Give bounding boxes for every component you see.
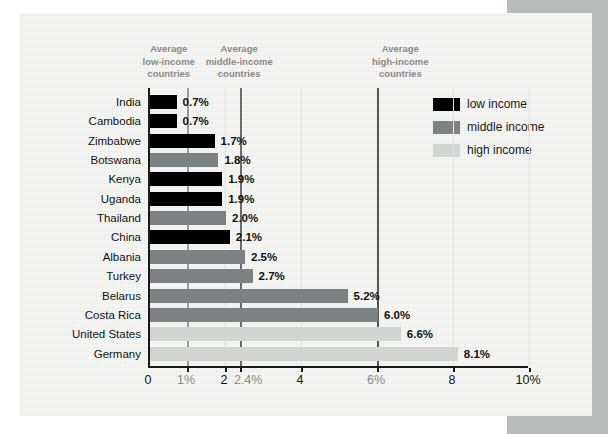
reference-line-low-average (187, 88, 189, 366)
x-tick-label-1: 1% (177, 373, 195, 387)
x-tick-label-2.4: 2.4% (234, 373, 263, 387)
category-label-botswana: Botswana (20, 153, 141, 167)
x-tick-label-8: 8 (449, 373, 456, 387)
x-tick-8 (453, 368, 455, 372)
value-label-albania: 2.5% (251, 250, 277, 264)
value-label-costa-rica: 6.0% (384, 308, 410, 322)
category-label-china: China (20, 230, 141, 244)
category-label-albania: Albania (20, 250, 141, 264)
x-tick-10 (529, 368, 531, 372)
gridline-4 (301, 88, 302, 366)
x-tick-6 (377, 368, 379, 372)
bar-thailand (150, 211, 226, 225)
plot-area: 0.7%0.7%1.7%1.8%1.9%1.9%2.0%2.1%2.5%2.7%… (148, 88, 528, 368)
value-label-germany: 8.1% (464, 347, 490, 361)
bar-costa-rica (150, 308, 378, 322)
bar-turkey (150, 269, 253, 283)
category-label-germany: Germany (20, 347, 141, 361)
x-tick-4 (301, 368, 303, 372)
bar-zimbabwe (150, 134, 215, 148)
value-label-china: 2.1% (236, 230, 262, 244)
bar-cambodia (150, 114, 177, 128)
x-tick-2 (225, 368, 227, 372)
x-tick-1 (187, 368, 189, 372)
category-label-india: India (20, 95, 141, 109)
value-label-zimbabwe: 1.7% (221, 134, 247, 148)
value-label-thailand: 2.0% (232, 211, 258, 225)
reference-line-middle-average (240, 88, 242, 366)
category-label-turkey: Turkey (20, 269, 141, 283)
category-label-thailand: Thailand (20, 211, 141, 225)
value-label-india: 0.7% (183, 95, 209, 109)
bar-albania (150, 250, 245, 264)
value-label-kenya: 1.9% (228, 172, 254, 186)
x-tick-label-10: 10% (515, 373, 540, 387)
value-label-botswana: 1.8% (224, 153, 250, 167)
category-label-belarus: Belarus (20, 289, 141, 303)
value-label-turkey: 2.7% (259, 269, 285, 283)
x-tick-label-2: 2 (221, 373, 228, 387)
bar-united-states (150, 327, 401, 341)
bar-uganda (150, 192, 222, 206)
value-label-uganda: 1.9% (228, 192, 254, 206)
bar-india (150, 95, 177, 109)
value-label-united-states: 6.6% (407, 327, 433, 341)
page: Averagelow-incomecountriesAveragemiddle-… (0, 0, 608, 434)
x-tick-label-4: 4 (297, 373, 304, 387)
bar-kenya (150, 172, 222, 186)
gridline-8 (453, 88, 454, 366)
category-label-cambodia: Cambodia (20, 114, 141, 128)
gridline-10 (529, 88, 530, 366)
bar-belarus (150, 289, 348, 303)
x-tick-label-0: 0 (145, 373, 152, 387)
x-tick-2.4 (240, 368, 242, 372)
chart-panel: Averagelow-incomecountriesAveragemiddle-… (20, 13, 592, 416)
gridline-2 (225, 88, 226, 366)
category-label-kenya: Kenya (20, 172, 141, 186)
category-label-zimbabwe: Zimbabwe (20, 134, 141, 148)
bar-botswana (150, 153, 218, 167)
reference-label-high-average: Averagehigh-incomecountries (372, 43, 428, 81)
x-tick-label-6: 6% (367, 373, 385, 387)
bar-germany (150, 347, 458, 361)
category-label-costa-rica: Costa Rica (20, 308, 141, 322)
category-label-uganda: Uganda (20, 192, 141, 206)
reference-label-low-average: Averagelow-incomecountries (143, 43, 195, 81)
reference-line-high-average (377, 88, 379, 366)
reference-label-middle-average: Averagemiddle-incomecountries (206, 43, 273, 81)
bar-china (150, 230, 230, 244)
category-label-united-states: United States (20, 327, 141, 341)
value-label-cambodia: 0.7% (183, 114, 209, 128)
value-label-belarus: 5.2% (354, 289, 380, 303)
